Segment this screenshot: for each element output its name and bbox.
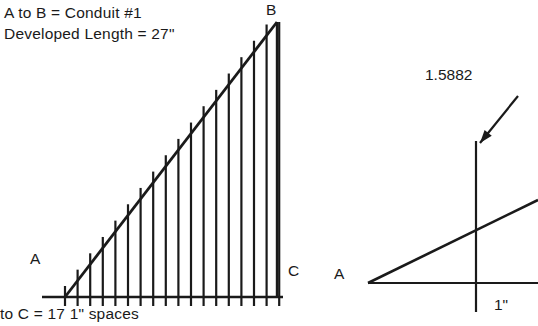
spaces-caption-line-1: to C = 17 1" spaces [0, 305, 139, 322]
detail-hypotenuse [368, 200, 538, 283]
label-ordinate-value: 1.5882 [425, 66, 472, 84]
left-triangle-group [42, 22, 283, 306]
figure-canvas: A to B = Conduit #1 Developed Length = 2… [0, 0, 538, 326]
label-one-inch-span: 1" [494, 296, 508, 314]
label-point-a-right: A [334, 265, 344, 283]
label-point-c-left: C [288, 262, 299, 280]
right-detail-group [368, 96, 538, 312]
hypotenuse-a-to-b [65, 22, 277, 297]
diagram-vector-layer [0, 0, 538, 326]
spaces-caption: to C = 17 1" spaces [0, 305, 139, 323]
label-point-b-left: B [266, 1, 276, 19]
label-point-a-left: A [30, 250, 40, 268]
